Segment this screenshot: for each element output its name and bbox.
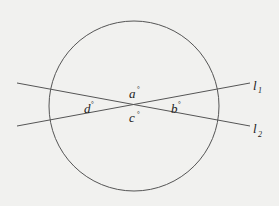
angle-b-degree: ° xyxy=(178,100,181,108)
circle xyxy=(49,21,219,191)
line-l2-label: l xyxy=(253,121,257,136)
angle-b-label: b xyxy=(171,101,178,116)
angle-d-label: d xyxy=(84,101,91,116)
angle-a-label: a xyxy=(129,86,136,101)
line-l1-subscript: 1 xyxy=(258,86,262,95)
diagram-svg: a ° b ° c ° d ° l 1 l 2 xyxy=(0,0,279,206)
angle-c-label: c xyxy=(129,110,135,125)
line-l1-label: l xyxy=(253,78,257,93)
diagram-canvas: a ° b ° c ° d ° l 1 l 2 xyxy=(0,0,279,206)
line-l2-subscript: 2 xyxy=(258,130,262,139)
angle-c-degree: ° xyxy=(137,110,140,118)
angle-d-degree: ° xyxy=(91,100,94,108)
angle-a-degree: ° xyxy=(137,85,140,93)
